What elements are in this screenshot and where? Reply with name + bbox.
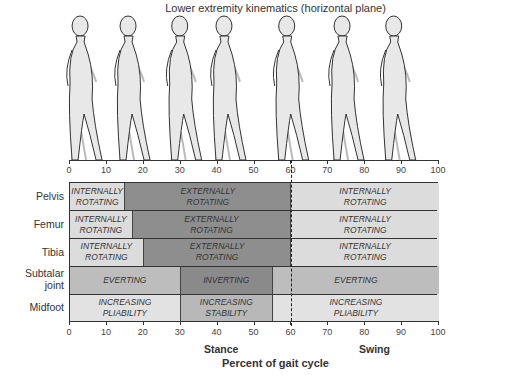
swing-label: Swing [359, 343, 390, 355]
axis-tick [217, 321, 218, 325]
axis-tick [180, 321, 181, 325]
segment-text: EXTERNALLYROTATING [184, 214, 239, 236]
axis-tick [290, 321, 291, 325]
segment: EXTERNALLYROTATING [125, 183, 291, 211]
tick-label: 30 [175, 165, 185, 175]
segment: EXTERNALLYROTATING [144, 239, 292, 267]
tick-label: 100 [430, 165, 445, 175]
axis-tick [254, 160, 255, 164]
tick-label: 90 [396, 327, 406, 337]
axis-tick [143, 321, 144, 325]
segment-text: INCREASINGPLIABILITY [330, 297, 383, 319]
segment-text: INTERNALLYROTATING [339, 186, 391, 208]
stance-label: Stance [204, 343, 238, 355]
axis-tick [438, 160, 439, 164]
tick-label: 10 [101, 165, 111, 175]
row-label: Subtalarjoint [0, 267, 64, 291]
segment: INCREASINGSTABILITY [181, 294, 273, 322]
segment-text: INCREASINGSTABILITY [200, 297, 253, 319]
segment-text: INTERNALLYROTATING [339, 214, 391, 236]
row-label: Femur [0, 218, 64, 230]
axis-tick [364, 321, 365, 325]
segment: INTERNALLYROTATING [291, 183, 439, 211]
tick-label: 10 [101, 327, 111, 337]
axis-tick [327, 160, 328, 164]
tick-label: 90 [396, 165, 406, 175]
segment-text: INTERNALLYROTATING [81, 241, 133, 263]
axis-tick [69, 160, 70, 164]
tick-label: 0 [66, 327, 71, 337]
segment-text: EXTERNALLYROTATING [181, 186, 236, 208]
tick-label: 50 [248, 327, 258, 337]
row-label: Pelvis [0, 190, 64, 202]
row-divider [70, 294, 437, 295]
segment-text: INCREASINGPLIABILITY [98, 297, 151, 319]
axis-tick [401, 160, 402, 164]
gait-grid: INTERNALLYROTATINGEXTERNALLYROTATINGINTE… [69, 182, 438, 321]
axis-tick [364, 160, 365, 164]
stance-swing-divider [291, 160, 292, 326]
segment: INTERNALLYROTATING [291, 239, 439, 267]
row-label: Tibia [0, 246, 64, 258]
segment-text: INTERNALLYROTATING [75, 214, 127, 236]
row-divider [70, 210, 437, 211]
tick-label: 70 [322, 327, 332, 337]
x-axis-label: Percent of gait cycle [0, 357, 511, 369]
tick-label: 20 [138, 165, 148, 175]
row-label: Midfoot [0, 301, 64, 313]
segment: EVERTING [70, 266, 181, 294]
segment-text: INTERNALLYROTATING [339, 241, 391, 263]
axis-tick [327, 321, 328, 325]
segment: INCREASINGPLIABILITY [70, 294, 181, 322]
tick-label: 50 [248, 165, 258, 175]
diagram-title: Lower extremity kinematics (horizontal p… [0, 2, 511, 14]
tick-label: 20 [138, 327, 148, 337]
row-divider [70, 266, 437, 267]
tick-label: 100 [430, 327, 445, 337]
tick-label: 70 [322, 165, 332, 175]
axis-tick [180, 160, 181, 164]
segment-text: EVERTING [103, 275, 146, 286]
axis-tick [106, 160, 107, 164]
tick-label: 40 [212, 327, 222, 337]
segment-text: INTERNALLYROTATING [71, 186, 123, 208]
segment: EVERTING [273, 266, 439, 294]
segment: INTERNALLYROTATING [70, 211, 133, 239]
segment: INVERTING [181, 266, 273, 294]
segment: INTERNALLYROTATING [291, 211, 439, 239]
segment: INTERNALLYROTATING [70, 183, 125, 211]
axis-tick [254, 321, 255, 325]
axis-tick [401, 321, 402, 325]
tick-label: 80 [359, 327, 369, 337]
segment-text: EXTERNALLYROTATING [190, 241, 245, 263]
walking-figures [0, 14, 511, 162]
tick-label: 40 [212, 165, 222, 175]
segment: EXTERNALLYROTATING [133, 211, 292, 239]
axis-tick [143, 160, 144, 164]
tick-label: 60 [285, 327, 295, 337]
tick-label: 80 [359, 165, 369, 175]
segment: INCREASINGPLIABILITY [273, 294, 439, 322]
tick-label: 30 [175, 327, 185, 337]
axis-tick [217, 160, 218, 164]
tick-label: 0 [66, 165, 71, 175]
axis-tick [69, 321, 70, 325]
axis-tick [438, 321, 439, 325]
segment-text: INVERTING [203, 275, 249, 286]
segment: INTERNALLYROTATING [70, 239, 144, 267]
segment-text: EVERTING [334, 275, 377, 286]
row-divider [70, 238, 437, 239]
axis-tick [106, 321, 107, 325]
